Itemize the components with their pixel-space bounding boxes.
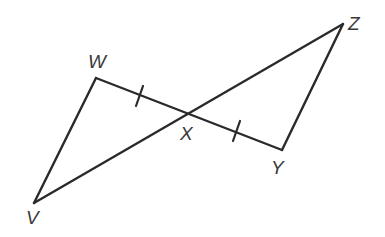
diagram-figure — [0, 0, 385, 237]
label-v: V — [26, 208, 39, 227]
label-x: X — [180, 124, 193, 143]
label-w: W — [88, 52, 106, 71]
label-y: Y — [271, 158, 284, 177]
segment-vz — [34, 24, 343, 203]
geometry-diagram: W Z X Y V — [0, 0, 385, 237]
label-z: Z — [348, 14, 360, 33]
